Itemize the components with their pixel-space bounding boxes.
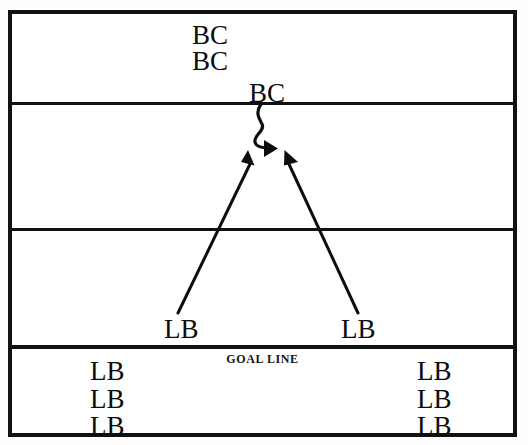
linebacker-label-mid-right: LB bbox=[341, 316, 376, 343]
linebacker-label-bottom-left-2: LB bbox=[90, 386, 125, 413]
linebacker-label-bottom-left-1: LB bbox=[90, 358, 125, 385]
ball-carrier-label-2: BC bbox=[192, 48, 228, 75]
linebacker-label-mid-left: LB bbox=[164, 316, 199, 343]
linebacker-pursuit-left-arrow bbox=[178, 150, 255, 313]
play-diagram-canvas: GOAL LINE BC BC BC LB LB bbox=[0, 0, 528, 445]
linebacker-label-bottom-right-1: LB bbox=[417, 358, 452, 385]
ball-carrier-label-1: BC bbox=[192, 22, 228, 49]
goal-line bbox=[12, 345, 513, 349]
ball-carrier-path-arrow bbox=[255, 104, 278, 157]
football-field: GOAL LINE BC BC BC LB LB bbox=[8, 10, 517, 437]
linebacker-label-bottom-right-2: LB bbox=[417, 386, 452, 413]
ball-carrier-label-3: BC bbox=[249, 80, 285, 107]
linebacker-label-bottom-right-3: LB bbox=[417, 413, 452, 440]
yard-line-lower bbox=[12, 228, 513, 231]
linebacker-pursuit-right-arrow bbox=[284, 150, 358, 313]
linebacker-label-bottom-left-3: LB bbox=[90, 413, 125, 440]
